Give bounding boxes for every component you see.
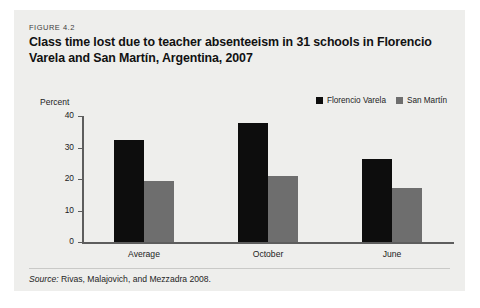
legend-swatch-icon-florencio-varela — [316, 97, 323, 104]
source-text: Rivas, Malajovich, and Mezzadra 2008. — [61, 274, 211, 284]
legend-swatch-icon-san-martin — [396, 97, 403, 104]
y-tick-label: 0 — [46, 236, 74, 246]
legend-item-san-martin[interactable]: San Martín — [396, 96, 447, 105]
legend-label-florencio-varela: Florencio Varela — [327, 96, 386, 105]
bar-october-florencio-varela[interactable] — [238, 123, 268, 242]
source-note: Source: Rivas, Malajovich, and Mezzadra … — [29, 274, 211, 284]
x-tick-label-june: June — [383, 249, 402, 259]
bar-october-san-martín[interactable] — [268, 176, 298, 242]
source-prefix: Source: — [29, 274, 59, 284]
x-tick-label-october: October — [253, 249, 284, 259]
x-tick-label-average: Average — [128, 249, 160, 259]
figure-card: FIGURE 4.2 Class time lost due to teache… — [14, 10, 465, 291]
y-tick-label: 20 — [46, 173, 74, 183]
chart-legend: Florencio Varela San Martín — [316, 96, 447, 105]
y-tick-mark — [78, 242, 82, 243]
bars-layer — [82, 116, 454, 242]
y-tick-label: 10 — [46, 205, 74, 215]
source-divider — [29, 268, 450, 269]
y-axis-label: Percent — [40, 97, 69, 107]
y-tick-label: 30 — [46, 142, 74, 152]
bar-june-florencio-varela[interactable] — [362, 159, 392, 242]
legend-label-san-martin: San Martín — [407, 96, 447, 105]
bar-average-san-martín[interactable] — [144, 181, 174, 242]
y-tick-label: 40 — [46, 110, 74, 120]
bar-june-san-martín[interactable] — [392, 188, 422, 242]
legend-item-florencio-varela[interactable]: Florencio Varela — [316, 96, 386, 105]
x-axis-line — [82, 242, 454, 244]
chart-plot-area: Percent Florencio Varela San Martín 0102… — [14, 10, 465, 291]
bar-average-florencio-varela[interactable] — [114, 140, 144, 242]
